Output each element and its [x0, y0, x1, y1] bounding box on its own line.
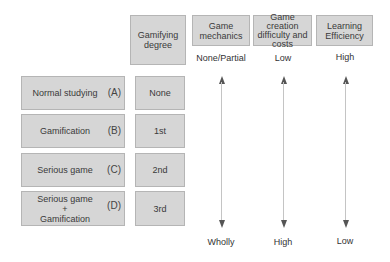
arrow-up-icon — [219, 76, 225, 84]
game-creation-header: Game creation difficulty and costs — [253, 15, 312, 46]
row-d-degree: 3rd — [153, 204, 166, 214]
row-a-label: Normal studying — [32, 88, 113, 98]
game-creation-title: Game creation difficulty and costs — [254, 13, 311, 49]
row-d-label-box: Serious game + Gamification (D) — [21, 191, 125, 226]
game-mechanics-title: Game mechanics — [193, 21, 249, 41]
row-a-label-box: Normal studying(A) — [21, 76, 125, 110]
row-d-label-line3: Gamification — [37, 214, 93, 224]
gamifying-degree-header: Gamifying degree — [130, 15, 186, 65]
row-d-degree-box: 3rd — [135, 191, 185, 226]
game-mechanics-bottom-value: Wholly — [186, 237, 256, 247]
learning-efficiency-header: Learning Efficiency — [316, 15, 373, 46]
learning-efficiency-bottom-value: Low — [310, 236, 380, 246]
row-c-degree: 2nd — [152, 165, 167, 175]
arrow-up-icon — [281, 76, 287, 84]
game-mechanics-top-value: None/Partial — [186, 53, 256, 63]
game-mechanics-header: Game mechanics — [192, 15, 250, 46]
row-a-degree: None — [149, 88, 171, 98]
row-b-label: Gamification — [40, 126, 106, 136]
game-creation-top-value: Low — [248, 53, 318, 63]
row-d-label-line1: Serious game — [37, 194, 93, 204]
row-a-degree-box: None — [135, 76, 185, 110]
row-d-letter: (D) — [107, 201, 121, 211]
row-a-letter: (A) — [108, 88, 121, 98]
row-c-label: Serious game — [37, 165, 109, 175]
game-creation-bottom-value: High — [248, 237, 318, 247]
game-creation-arrow — [283, 82, 284, 222]
row-c-degree-box: 2nd — [135, 153, 185, 187]
arrow-down-icon — [281, 220, 287, 228]
row-b-letter: (B) — [108, 126, 121, 136]
learning-efficiency-arrow — [345, 82, 346, 222]
gamifying-degree-title: Gamifying degree — [138, 30, 179, 50]
arrow-up-icon — [343, 76, 349, 84]
arrow-down-icon — [343, 220, 349, 228]
learning-efficiency-title: Learning Efficiency — [317, 21, 372, 41]
arrow-down-icon — [219, 220, 225, 228]
game-mechanics-arrow — [221, 82, 222, 222]
row-b-degree: 1st — [154, 126, 166, 136]
row-d-label-line2: + — [37, 204, 93, 214]
learning-efficiency-top-value: High — [310, 52, 380, 62]
row-c-label-box: Serious game(C) — [21, 153, 125, 187]
row-b-label-box: Gamification(B) — [21, 114, 125, 148]
row-c-letter: (C) — [107, 165, 121, 175]
row-b-degree-box: 1st — [135, 114, 185, 148]
